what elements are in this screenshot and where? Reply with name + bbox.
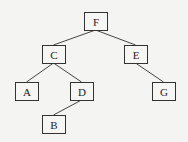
edge-C-A [27, 63, 54, 82]
binary-tree-diagram: FCEADGB [0, 0, 188, 142]
node-label: G [160, 86, 168, 98]
edge-F-E [96, 30, 136, 45]
node-label: B [50, 119, 57, 131]
node-label: A [23, 86, 31, 98]
tree-node-A: A [16, 83, 39, 101]
tree-node-F: F [85, 13, 108, 31]
tree-node-G: G [153, 83, 176, 101]
node-label: E [133, 49, 140, 61]
tree-node-B: B [43, 116, 66, 134]
node-label: F [93, 16, 99, 28]
node-label: D [78, 86, 86, 98]
edge-D-B [54, 100, 82, 115]
tree-node-C: C [43, 46, 66, 64]
node-label: C [50, 49, 57, 61]
edge-C-D [54, 63, 82, 82]
tree-node-D: D [71, 83, 94, 101]
tree-node-E: E [125, 46, 148, 64]
edge-E-G [136, 63, 164, 82]
edge-F-C [54, 30, 96, 45]
